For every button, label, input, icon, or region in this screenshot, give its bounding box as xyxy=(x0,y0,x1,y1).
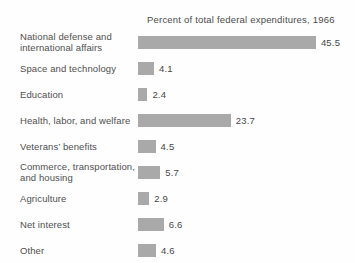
category-label: Net interest xyxy=(0,219,138,230)
chart-row: National defense andinternational affair… xyxy=(0,29,355,55)
category-label-line: Net interest xyxy=(20,219,138,230)
bar xyxy=(138,36,316,49)
chart-row: Commerce, transportation,and housing5.7 xyxy=(0,159,355,185)
bar xyxy=(138,218,164,231)
category-label: Education xyxy=(0,89,138,100)
value-label: 45.5 xyxy=(321,37,340,48)
value-label: 4.6 xyxy=(161,245,175,256)
value-label: 5.7 xyxy=(165,167,179,178)
category-label-line: Health, labor, and welfare xyxy=(20,115,138,126)
category-label: Health, labor, and welfare xyxy=(0,115,138,126)
value-label: 23.7 xyxy=(236,115,255,126)
chart-row: Education2.4 xyxy=(0,81,355,107)
category-label: Agriculture xyxy=(0,193,138,204)
category-label: Veterans’ benefits xyxy=(0,141,138,152)
chart-row: Veterans’ benefits4.5 xyxy=(0,133,355,159)
category-label-line: Other xyxy=(20,245,138,256)
bar xyxy=(138,192,149,205)
category-label-line: Commerce, transportation, xyxy=(20,161,138,172)
category-label: Other xyxy=(0,245,138,256)
category-label-line: Veterans’ benefits xyxy=(20,141,138,152)
category-label-line: Education xyxy=(20,89,138,100)
value-label: 4.1 xyxy=(159,63,173,74)
value-label: 2.4 xyxy=(152,89,166,100)
category-label: Commerce, transportation,and housing xyxy=(0,161,138,183)
category-label-line: and housing xyxy=(20,172,138,183)
category-label-line: international affairs xyxy=(20,42,138,53)
category-label: National defense andinternational affair… xyxy=(0,31,138,53)
bar xyxy=(138,114,231,127)
bar xyxy=(138,62,154,75)
value-label: 6.6 xyxy=(169,219,183,230)
value-label: 2.9 xyxy=(154,193,168,204)
bar xyxy=(138,166,160,179)
chart-row: Other4.6 xyxy=(0,237,355,263)
category-label-line: Space and technology xyxy=(20,63,138,74)
chart-title: Percent of total federal expenditures, 1… xyxy=(147,14,355,29)
chart-rows: National defense andinternational affair… xyxy=(0,29,355,263)
chart-row: Space and technology4.1 xyxy=(0,55,355,81)
category-label: Space and technology xyxy=(0,63,138,74)
bar-chart: Percent of total federal expenditures, 1… xyxy=(0,0,355,263)
value-label: 4.5 xyxy=(161,141,175,152)
chart-row: Agriculture2.9 xyxy=(0,185,355,211)
bar xyxy=(138,244,156,257)
chart-row: Health, labor, and welfare23.7 xyxy=(0,107,355,133)
category-label-line: National defense and xyxy=(20,31,138,42)
bar xyxy=(138,88,147,101)
chart-row: Net interest6.6 xyxy=(0,211,355,237)
bar xyxy=(138,140,156,153)
category-label-line: Agriculture xyxy=(20,193,138,204)
